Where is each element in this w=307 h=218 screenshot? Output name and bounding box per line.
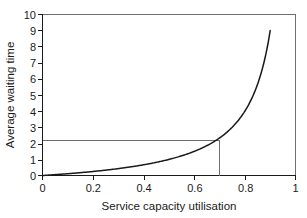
x-tick-label: 0.2 — [86, 182, 101, 194]
y-tick-label: 4 — [30, 106, 36, 118]
waiting-time-chart: 10 9 8 7 6 5 4 3 2 1 0 0 0.2 0.4 0.6 0.8… — [0, 0, 307, 218]
plot-area-background — [42, 14, 296, 176]
y-axis-title: Average waiting time — [4, 42, 16, 149]
x-tick-label: 0.8 — [238, 182, 253, 194]
y-axis-ticks — [38, 15, 42, 176]
x-tick-label: 0.4 — [136, 182, 151, 194]
y-tick-label: 6 — [30, 73, 36, 85]
y-tick-label: 2 — [30, 138, 36, 150]
y-tick-label: 8 — [30, 41, 36, 53]
x-axis-ticks — [43, 176, 296, 180]
y-tick-label: 3 — [30, 122, 36, 134]
x-tick-labels: 0 0.2 0.4 0.6 0.8 1 — [39, 182, 298, 194]
y-tick-label: 0 — [30, 170, 36, 182]
x-tick-label: 0 — [39, 182, 45, 194]
y-tick-label: 9 — [30, 25, 36, 37]
y-tick-labels: 10 9 8 7 6 5 4 3 2 1 0 — [24, 9, 36, 182]
x-tick-label: 1 — [292, 182, 298, 194]
y-tick-label: 10 — [24, 9, 36, 21]
x-tick-label: 0.6 — [187, 182, 202, 194]
x-axis-title: Service capacity utilisation — [102, 200, 237, 212]
y-tick-label: 5 — [30, 90, 36, 102]
chart-figure: 10 9 8 7 6 5 4 3 2 1 0 0 0.2 0.4 0.6 0.8… — [0, 0, 307, 218]
y-tick-label: 1 — [30, 154, 36, 166]
y-tick-label: 7 — [30, 57, 36, 69]
